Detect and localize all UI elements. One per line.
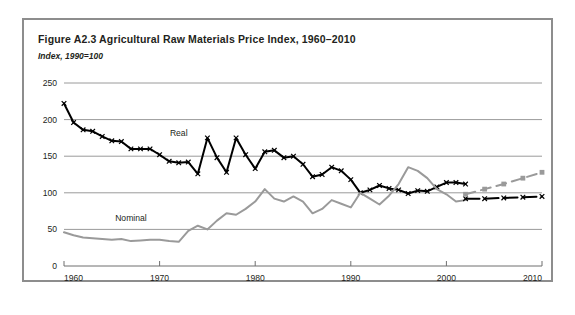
svg-text:1990: 1990 <box>341 273 360 283</box>
svg-text:1970: 1970 <box>150 273 169 283</box>
x-axis <box>64 261 542 266</box>
data-point-marker <box>520 176 525 181</box>
y-axis-tick-labels: 050100150200250 <box>43 78 58 271</box>
svg-text:2010: 2010 <box>523 273 542 283</box>
series-label-nominal: Nominal <box>115 213 147 223</box>
svg-text:250: 250 <box>43 78 58 88</box>
price-index-chart: 050100150200250 196019701980199020002010… <box>24 20 555 284</box>
gridlines <box>64 83 542 229</box>
svg-text:100: 100 <box>43 188 58 198</box>
svg-text:2000: 2000 <box>437 273 456 283</box>
figure-panel: Figure A2.3 Agricultural Raw Materials P… <box>22 18 553 282</box>
data-point-marker <box>501 182 506 187</box>
series-annotations: RealNominal <box>115 128 187 223</box>
x-axis-tick-labels: 196019701980199020002010 <box>64 273 542 283</box>
svg-text:50: 50 <box>47 224 57 234</box>
svg-text:200: 200 <box>43 115 58 125</box>
data-point-marker <box>463 192 468 197</box>
svg-text:1980: 1980 <box>246 273 265 283</box>
svg-text:150: 150 <box>43 151 58 161</box>
series-line <box>64 167 466 242</box>
series-line <box>64 104 466 194</box>
svg-text:1960: 1960 <box>64 273 83 283</box>
data-point-marker <box>482 187 487 192</box>
svg-text:0: 0 <box>52 261 57 271</box>
data-point-marker <box>540 170 545 175</box>
data-point-marker <box>540 194 545 199</box>
series-label-real: Real <box>170 128 188 138</box>
